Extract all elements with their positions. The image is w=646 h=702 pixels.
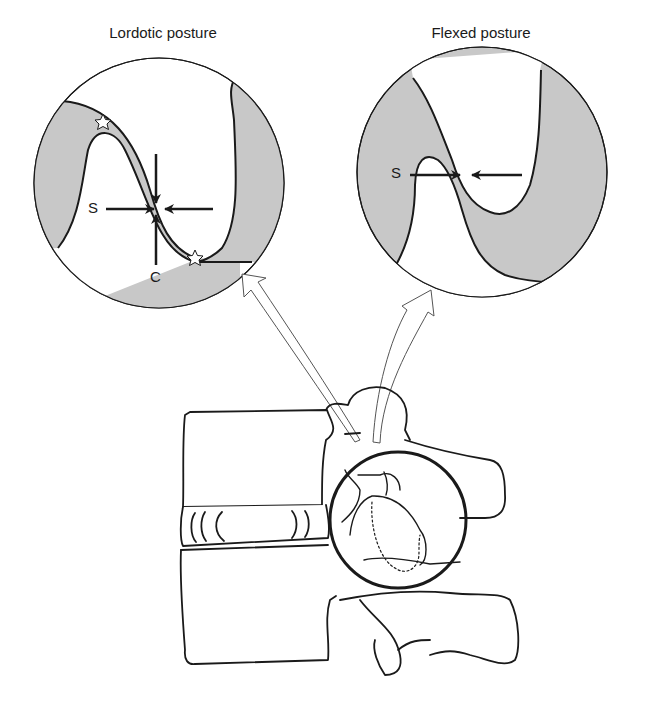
pointer-arrow-to-flexed bbox=[373, 290, 434, 443]
shear-label-flexed: S bbox=[391, 164, 401, 181]
diagram-canvas bbox=[0, 0, 646, 702]
compression-label-lordotic: C bbox=[150, 268, 161, 285]
shear-label-lordotic: S bbox=[88, 199, 98, 216]
